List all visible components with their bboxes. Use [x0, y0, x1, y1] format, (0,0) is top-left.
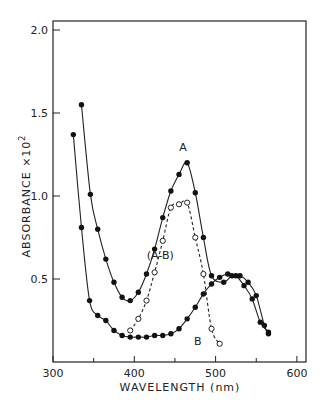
- data-point-filled: [225, 271, 230, 276]
- x-axis-ticks: 300400500600: [43, 356, 308, 380]
- y-axis-ticks: 0.51.01.52.0: [31, 24, 61, 286]
- series-layer: AB(A-B): [71, 102, 272, 348]
- series-label: B: [194, 335, 202, 348]
- x-tick-label: 400: [124, 367, 145, 380]
- data-point-filled: [176, 326, 181, 331]
- data-point-filled: [249, 296, 254, 301]
- data-point-filled: [168, 331, 173, 336]
- data-point-open: [176, 202, 181, 207]
- data-point-filled: [168, 188, 173, 193]
- data-point-open: [201, 271, 206, 276]
- data-point-filled: [71, 132, 76, 137]
- series-a-b: (A-B): [128, 200, 223, 346]
- data-point-filled: [79, 225, 84, 230]
- series-label: (A-B): [147, 249, 174, 262]
- y-axis-label: ABSORBANCE ×102: [18, 135, 33, 258]
- data-point-open: [144, 298, 149, 303]
- data-point-filled: [209, 281, 214, 286]
- series-line: [81, 105, 268, 334]
- data-point-filled: [193, 305, 198, 310]
- data-point-filled: [233, 273, 238, 278]
- data-point-filled: [128, 298, 133, 303]
- data-point-open: [136, 316, 141, 321]
- y-axis-label-exponent: 2: [18, 135, 27, 141]
- data-point-filled: [119, 333, 124, 338]
- series-label: A: [179, 141, 187, 154]
- x-tick-label: 300: [43, 367, 64, 380]
- data-point-filled: [241, 283, 246, 288]
- data-point-open: [193, 235, 198, 240]
- data-point-filled: [152, 333, 157, 338]
- data-point-filled: [111, 280, 116, 285]
- data-point-open: [209, 326, 214, 331]
- data-point-filled: [258, 319, 263, 324]
- data-point-filled: [136, 334, 141, 339]
- data-point-filled: [144, 271, 149, 276]
- x-axis-label: WAVELENGTH (nm): [120, 381, 241, 394]
- data-point-filled: [266, 329, 271, 334]
- data-point-filled: [79, 102, 84, 107]
- y-tick-label: 2.0: [31, 24, 49, 37]
- data-point-open: [128, 328, 133, 333]
- data-point-open: [217, 341, 222, 346]
- data-point-filled: [201, 291, 206, 296]
- data-point-filled: [136, 290, 141, 295]
- data-point-filled: [119, 295, 124, 300]
- x-tick-label: 600: [286, 367, 307, 380]
- data-point-filled: [221, 280, 226, 285]
- data-point-filled: [193, 190, 198, 195]
- data-point-filled: [88, 192, 93, 197]
- data-point-filled: [95, 227, 100, 232]
- data-point-filled: [184, 160, 189, 165]
- y-tick-label: 0.5: [31, 273, 49, 286]
- data-point-open: [160, 238, 165, 243]
- data-point-open: [152, 270, 157, 275]
- series-a: A: [79, 102, 271, 336]
- data-point-open: [185, 200, 190, 205]
- data-point-filled: [111, 328, 116, 333]
- data-point-open: [168, 205, 173, 210]
- data-point-filled: [144, 334, 149, 339]
- y-tick-label: 1.5: [31, 107, 49, 120]
- data-point-filled: [103, 318, 108, 323]
- data-point-filled: [103, 256, 108, 261]
- y-axis-label-text: ABSORBANCE ×10: [20, 141, 33, 258]
- x-tick-label: 500: [205, 367, 226, 380]
- data-point-filled: [128, 334, 133, 339]
- y-tick-label: 1.0: [31, 190, 49, 203]
- data-point-filled: [217, 275, 222, 280]
- data-point-filled: [201, 235, 206, 240]
- data-point-filled: [160, 333, 165, 338]
- plot-frame: [53, 21, 306, 362]
- data-point-filled: [209, 273, 214, 278]
- absorbance-spectrum-chart: 300400500600 0.51.01.52.0 AB(A-B) WAVELE…: [0, 0, 324, 409]
- data-point-filled: [176, 172, 181, 177]
- data-point-filled: [160, 215, 165, 220]
- data-point-filled: [95, 313, 100, 318]
- series-line: [130, 200, 219, 343]
- data-point-filled: [184, 316, 189, 321]
- data-point-filled: [87, 298, 92, 303]
- series-line: [73, 135, 268, 338]
